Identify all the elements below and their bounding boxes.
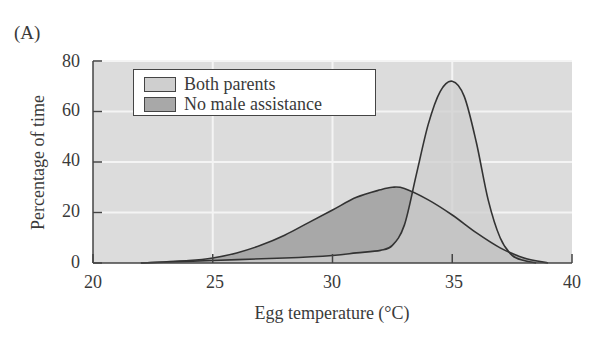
x-axis-label: Egg temperature (°C) [232, 303, 432, 324]
y-tick-40: 40 [40, 150, 80, 171]
legend-swatch-both-parents [144, 77, 176, 92]
legend-label: Both parents [184, 74, 276, 94]
x-tick-25: 25 [195, 272, 235, 293]
legend-item-no-male-assistance: No male assistance [144, 94, 322, 114]
y-tick-60: 60 [40, 100, 80, 121]
legend-item-both-parents: Both parents [144, 74, 276, 94]
legend-swatch-no-male-assistance [144, 97, 176, 112]
y-tick-0: 0 [40, 252, 80, 273]
y-tick-20: 20 [40, 201, 80, 222]
legend-label: No male assistance [184, 94, 322, 114]
legend: Both parents No male assistance [133, 69, 376, 116]
y-tick-80: 80 [40, 51, 80, 72]
x-tick-20: 20 [73, 272, 113, 293]
x-tick-40: 40 [552, 272, 592, 293]
x-tick-30: 30 [312, 272, 352, 293]
x-tick-35: 35 [434, 272, 474, 293]
